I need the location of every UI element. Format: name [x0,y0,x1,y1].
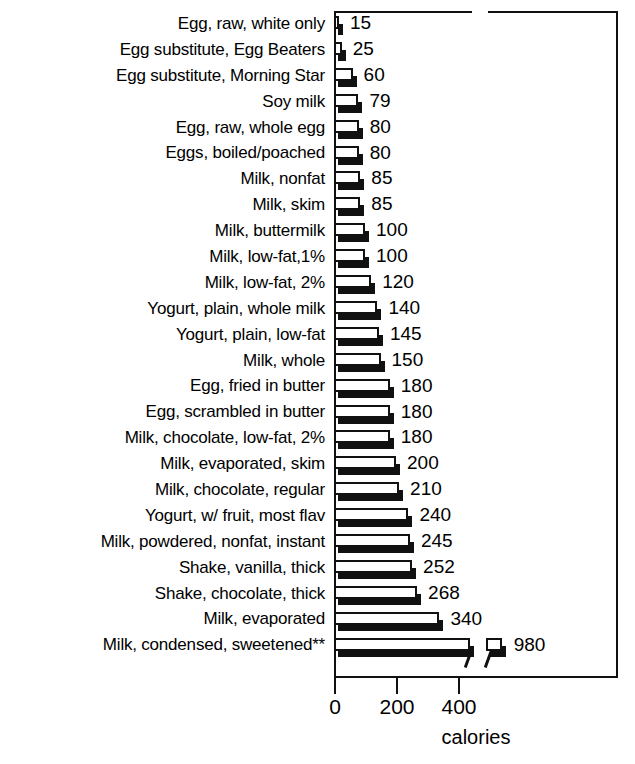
bar-row: 180 [334,427,618,453]
bar-value-label: 25 [353,36,374,61]
bar-value-label: 120 [382,269,414,294]
bar-row: 180 [334,402,618,428]
bar-value-label: 240 [419,502,451,527]
bar-face[interactable] [334,301,377,314]
bar-face[interactable] [334,146,359,159]
bar-value-label: 268 [428,580,460,605]
bar-face[interactable] [334,482,399,495]
category-label: Egg, scrambled in butter [0,399,330,425]
bar-face[interactable] [334,94,358,107]
category-label: Egg, raw, whole egg [0,115,330,141]
category-label: Milk, buttermilk [0,218,330,244]
bar-row: 980 [334,635,618,661]
category-label: Yogurt, w/ fruit, most flav [0,503,330,529]
bar-value-label: 210 [410,476,442,501]
bar-row: 340 [334,609,618,635]
bar-row: 120 [334,272,618,298]
bar-face[interactable] [334,508,408,521]
bar-value-label: 200 [407,450,439,475]
bars-layer: 1525607980808585100100120140145150180180… [334,13,618,676]
bar-row: 252 [334,557,618,583]
category-label: Egg, fried in butter [0,373,330,399]
bar-face[interactable] [334,353,381,366]
bar-face[interactable] [334,586,417,599]
bar-face[interactable] [334,68,353,81]
category-label: Milk, chocolate, low-fat, 2% [0,425,330,451]
bar-value-label: 140 [388,295,420,320]
category-label: Egg substitute, Egg Beaters [0,37,330,63]
category-label: Milk, chocolate, regular [0,477,330,503]
bar-value-label: 340 [450,606,482,631]
category-label: Eggs, boiled/poached [0,140,330,166]
category-label: Milk, whole [0,348,330,374]
bar-face[interactable] [334,223,365,236]
bar-face[interactable] [334,327,379,340]
x-axis-tick-label: 0 [329,694,341,720]
axis-break-mark-right [484,649,493,668]
x-axis-tick-label: 400 [441,694,476,720]
bar-face[interactable] [334,249,365,262]
bar-face[interactable] [334,120,359,133]
bar-row: 140 [334,298,618,324]
bar-row: 210 [334,479,618,505]
bar-value-label: 80 [370,114,391,139]
bar-value-label: 80 [370,140,391,165]
bar-face[interactable] [334,430,390,443]
bar-face[interactable] [334,405,390,418]
bar-value-label: 245 [421,528,453,553]
bar-face[interactable] [334,197,360,210]
x-axis-title: calories [396,726,556,749]
bar-row: 200 [334,453,618,479]
bar-value-label: 100 [376,243,408,268]
bar-value-label: 180 [401,424,433,449]
bar-value-label: 252 [423,554,455,579]
bar-face-segment-1[interactable] [334,638,470,651]
bar-value-label: 85 [371,191,392,216]
bar-face[interactable] [334,612,439,625]
category-label: Milk, evaporated [0,606,330,632]
bar-row: 145 [334,324,618,350]
bar-row: 150 [334,350,618,376]
category-label: Shake, chocolate, thick [0,581,330,607]
bar-row: 15 [334,13,618,39]
x-axis-tick [334,678,336,694]
calories-bar-chart: Egg, raw, white onlyEgg substitute, Egg … [0,0,635,764]
x-axis-tick [396,678,398,694]
category-label: Milk, low-fat,1% [0,244,330,270]
bar-value-label: 79 [369,88,390,113]
category-label: Milk, low-fat, 2% [0,270,330,296]
bar-value-label: 980 [514,632,546,657]
category-label: Egg substitute, Morning Star [0,63,330,89]
category-label: Shake, vanilla, thick [0,555,330,581]
category-label: Milk, evaporated, skim [0,451,330,477]
bar-value-label: 60 [364,62,385,87]
bar-value-label: 85 [371,165,392,190]
category-label: Milk, powdered, nonfat, instant [0,529,330,555]
bar-value-label: 180 [401,373,433,398]
bar-face[interactable] [334,42,342,55]
bar-face[interactable] [334,534,410,547]
bar-face-segment-2[interactable] [486,638,502,651]
bar-face[interactable] [334,171,360,184]
category-label: Soy milk [0,89,330,115]
bar-row: 240 [334,505,618,531]
category-label: Yogurt, plain, whole milk [0,296,330,322]
bar-face[interactable] [334,16,339,29]
x-axis-tick-label: 200 [379,694,414,720]
bar-face[interactable] [334,456,396,469]
category-label: Milk, condensed, sweetened** [0,632,330,658]
category-label: Milk, skim [0,192,330,218]
x-axis-tick [458,678,460,694]
x-axis: calories 0200400 [334,678,624,764]
bar-value-label: 150 [392,347,424,372]
category-label: Milk, nonfat [0,166,330,192]
bar-face[interactable] [334,275,371,288]
category-label: Yogurt, plain, low-fat [0,322,330,348]
bar-row: 100 [334,246,618,272]
bar-row: 245 [334,531,618,557]
bar-face[interactable] [334,379,390,392]
bar-value-label: 180 [401,399,433,424]
bar-row: 180 [334,376,618,402]
bar-face[interactable] [334,560,412,573]
bar-value-label: 100 [376,217,408,242]
